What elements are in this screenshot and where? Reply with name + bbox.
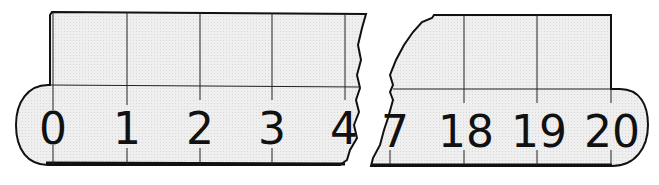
- label-2: 2: [186, 103, 214, 154]
- right-strip-piece: 7 18 19 20: [371, 15, 648, 166]
- label-19: 19: [511, 106, 567, 157]
- number-line-diagram: 0 1 2 3 4 7 18 19 20: [0, 0, 659, 185]
- label-20: 20: [584, 106, 640, 157]
- label-17-partial: 7: [381, 106, 409, 157]
- label-18: 18: [438, 106, 494, 157]
- label-3: 3: [258, 103, 286, 154]
- label-1: 1: [113, 103, 141, 154]
- label-0: 0: [39, 103, 67, 154]
- left-strip-piece: 0 1 2 3 4: [16, 12, 366, 165]
- label-4: 4: [330, 103, 358, 154]
